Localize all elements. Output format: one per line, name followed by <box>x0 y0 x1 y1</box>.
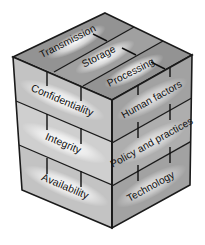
mccumber-cube-figure: Transmission Storage Processing Confiden… <box>0 0 205 245</box>
cube-diagram: Transmission Storage Processing Confiden… <box>0 0 205 245</box>
